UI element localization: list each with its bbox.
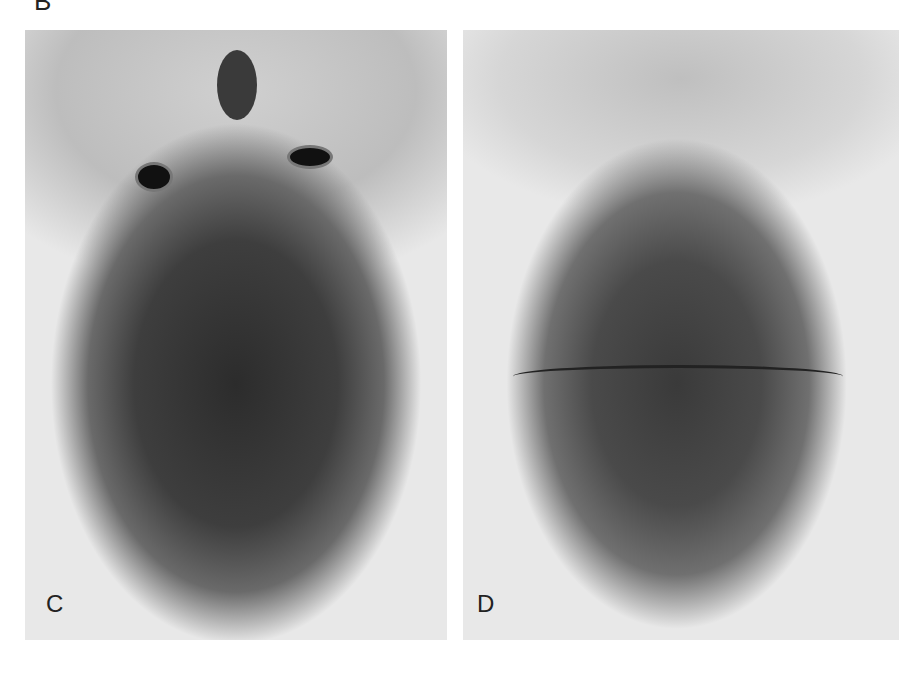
panel-label-d: D	[477, 590, 494, 618]
left-eye	[135, 162, 173, 192]
top-panel-label: B	[34, 0, 51, 17]
panel-label-c: C	[46, 590, 63, 618]
scar-line	[513, 365, 843, 388]
right-eye	[287, 145, 333, 169]
photo-panel-d: D	[463, 30, 899, 640]
photo-panel-c: C	[25, 30, 447, 640]
nose-shape	[217, 50, 257, 120]
